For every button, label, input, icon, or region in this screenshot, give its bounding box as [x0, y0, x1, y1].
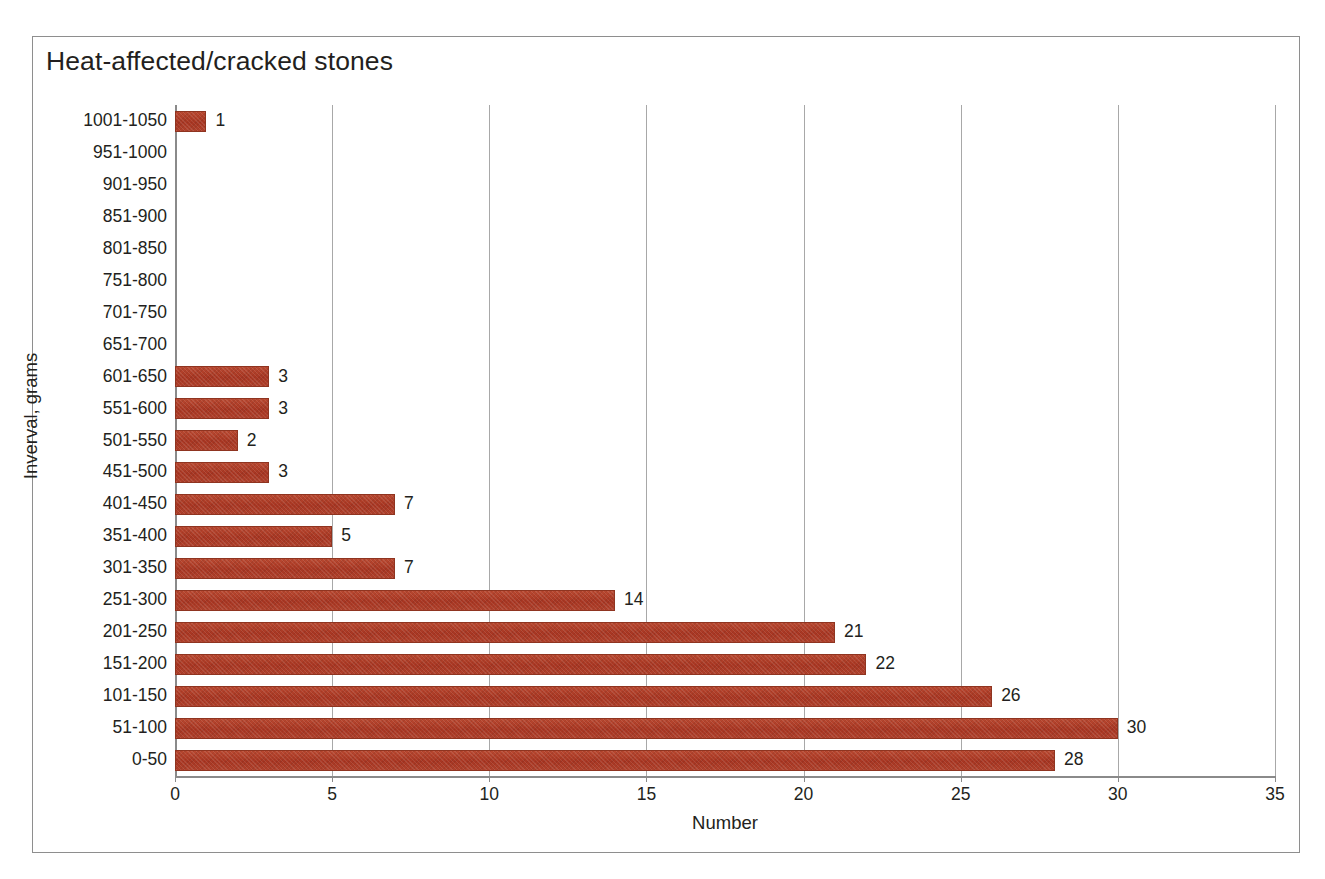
- bar-row[interactable]: [175, 201, 1325, 233]
- y-tick-label-101-150: 101-150: [0, 680, 167, 712]
- bar-row[interactable]: [175, 233, 1325, 265]
- bar-51-100[interactable]: [175, 718, 1118, 739]
- bar-row[interactable]: 1: [175, 105, 1325, 137]
- y-tick-label-951-1000: 951-1000: [0, 137, 167, 169]
- y-tick-label-651-700: 651-700: [0, 329, 167, 361]
- bar-value-label-101-150: 26: [1001, 685, 1020, 706]
- chart-page: Heat-affected/cracked stones Inverval, g…: [0, 0, 1325, 879]
- plot-area: 13323757142122263028: [175, 105, 1275, 776]
- bar-value-label-401-450: 7: [404, 493, 414, 514]
- bar-row[interactable]: 28: [175, 744, 1325, 776]
- x-tick-10: [489, 776, 490, 782]
- bar-row[interactable]: 3: [175, 393, 1325, 425]
- y-tick-label-301-350: 301-350: [0, 552, 167, 584]
- x-tick-label-35: 35: [1265, 784, 1284, 805]
- bar-value-label-551-600: 3: [278, 398, 288, 419]
- x-tick-label-15: 15: [637, 784, 656, 805]
- x-tick-35: [1275, 776, 1276, 782]
- bar-value-label-151-200: 22: [875, 653, 894, 674]
- bar-value-label-501-550: 2: [247, 430, 257, 451]
- y-tick-label-701-750: 701-750: [0, 297, 167, 329]
- y-tick-label-1001-1050: 1001-1050: [0, 105, 167, 137]
- bar-row[interactable]: 7: [175, 488, 1325, 520]
- bar-row[interactable]: [175, 297, 1325, 329]
- x-tick-25: [961, 776, 962, 782]
- bar-value-label-51-100: 30: [1127, 717, 1146, 738]
- bar-value-label-451-500: 3: [278, 461, 288, 482]
- y-tick-label-201-250: 201-250: [0, 616, 167, 648]
- y-tick-label-401-450: 401-450: [0, 488, 167, 520]
- chart-title: Heat-affected/cracked stones: [46, 46, 393, 77]
- y-tick-label-51-100: 51-100: [0, 712, 167, 744]
- bar-row[interactable]: [175, 265, 1325, 297]
- bar-row[interactable]: 26: [175, 680, 1325, 712]
- y-tick-label-851-900: 851-900: [0, 201, 167, 233]
- bar-251-300[interactable]: [175, 590, 615, 611]
- x-axis-tick-labels: 05101520253035: [0, 784, 1325, 810]
- bar-row[interactable]: 3: [175, 361, 1325, 393]
- bar-row[interactable]: 3: [175, 456, 1325, 488]
- x-tick-15: [646, 776, 647, 782]
- bar-551-600[interactable]: [175, 398, 269, 419]
- bar-value-label-601-650: 3: [278, 366, 288, 387]
- y-tick-label-151-200: 151-200: [0, 648, 167, 680]
- bar-row[interactable]: [175, 137, 1325, 169]
- bar-row[interactable]: [175, 329, 1325, 361]
- bar-row[interactable]: 14: [175, 584, 1325, 616]
- y-tick-label-551-600: 551-600: [0, 393, 167, 425]
- x-axis-title: Number: [175, 812, 1275, 834]
- x-tick-30: [1118, 776, 1119, 782]
- y-tick-label-501-550: 501-550: [0, 425, 167, 457]
- x-tick-5: [332, 776, 333, 782]
- bar-351-400[interactable]: [175, 526, 332, 547]
- x-tick-label-20: 20: [794, 784, 813, 805]
- bar-value-label-251-300: 14: [624, 589, 643, 610]
- x-axis-line: [175, 776, 1276, 778]
- x-tick-label-5: 5: [327, 784, 337, 805]
- bar-row[interactable]: 22: [175, 648, 1325, 680]
- x-tick-20: [804, 776, 805, 782]
- bar-451-500[interactable]: [175, 462, 269, 483]
- y-tick-label-751-800: 751-800: [0, 265, 167, 297]
- bar-201-250[interactable]: [175, 622, 835, 643]
- bar-rows: 13323757142122263028: [175, 105, 1275, 776]
- y-tick-label-901-950: 901-950: [0, 169, 167, 201]
- bar-101-150[interactable]: [175, 686, 992, 707]
- y-tick-label-0-50: 0-50: [0, 744, 167, 776]
- bar-1001-1050[interactable]: [175, 111, 206, 132]
- bar-row[interactable]: 2: [175, 425, 1325, 457]
- bar-row[interactable]: 30: [175, 712, 1325, 744]
- bar-301-350[interactable]: [175, 558, 395, 579]
- x-tick-label-0: 0: [170, 784, 180, 805]
- bar-401-450[interactable]: [175, 494, 395, 515]
- x-tick-0: [175, 776, 176, 782]
- bar-value-label-301-350: 7: [404, 557, 414, 578]
- bar-value-label-0-50: 28: [1064, 749, 1083, 770]
- bar-501-550[interactable]: [175, 430, 238, 451]
- y-tick-label-351-400: 351-400: [0, 520, 167, 552]
- x-tick-label-25: 25: [951, 784, 970, 805]
- x-tick-label-30: 30: [1108, 784, 1127, 805]
- bar-601-650[interactable]: [175, 366, 269, 387]
- y-tick-label-251-300: 251-300: [0, 584, 167, 616]
- y-tick-label-451-500: 451-500: [0, 456, 167, 488]
- y-tick-label-601-650: 601-650: [0, 361, 167, 393]
- bar-row[interactable]: [175, 169, 1325, 201]
- y-tick-label-801-850: 801-850: [0, 233, 167, 265]
- bar-151-200[interactable]: [175, 654, 866, 675]
- bar-0-50[interactable]: [175, 750, 1055, 771]
- bar-value-label-201-250: 21: [844, 621, 863, 642]
- x-tick-label-10: 10: [480, 784, 499, 805]
- bar-row[interactable]: 21: [175, 616, 1325, 648]
- bar-value-label-351-400: 5: [341, 525, 351, 546]
- y-axis-tick-labels: 1001-1050951-1000901-950851-900801-85075…: [0, 105, 167, 776]
- bar-row[interactable]: 7: [175, 552, 1325, 584]
- bar-row[interactable]: 5: [175, 520, 1325, 552]
- bar-value-label-1001-1050: 1: [215, 110, 225, 131]
